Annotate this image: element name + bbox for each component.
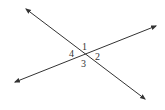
angle-label-1: 1 <box>82 41 87 52</box>
angle-label-3: 3 <box>81 58 86 69</box>
angle-label-2: 2 <box>95 51 100 62</box>
line-b <box>15 26 156 82</box>
angles-diagram: 1 2 3 4 <box>0 0 165 110</box>
angle-label-4: 4 <box>69 48 74 59</box>
